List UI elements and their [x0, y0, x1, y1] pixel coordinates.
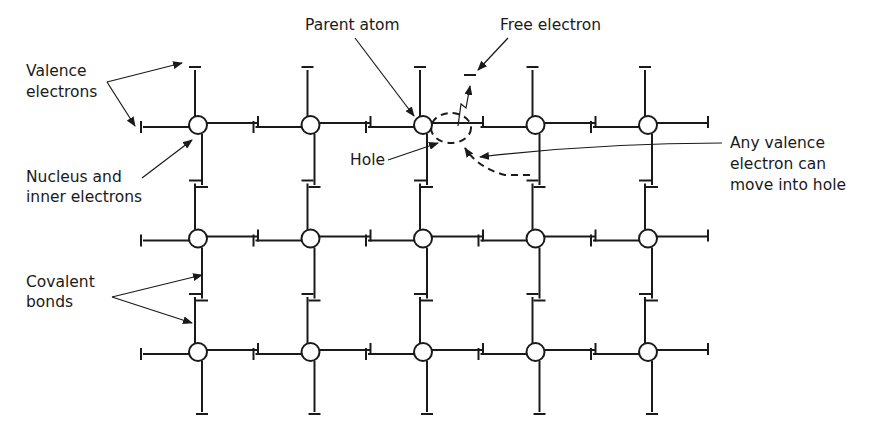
atom-nucleus	[302, 230, 320, 248]
arrow-parent-atom	[355, 38, 414, 116]
atom-nucleus	[527, 116, 545, 134]
svg-text:inner electrons: inner electrons	[26, 188, 142, 206]
atom-nucleus	[639, 116, 657, 134]
svg-text:move into hole: move into hole	[730, 176, 846, 194]
arrow-valence-left	[107, 82, 135, 126]
label-valence-electrons: Valence electrons	[26, 62, 97, 101]
atom-nucleus	[414, 343, 432, 361]
label-hole: Hole	[350, 151, 385, 169]
svg-text:Any valence: Any valence	[730, 134, 825, 152]
arrow-nucleus	[142, 140, 192, 178]
atom-lattice	[141, 67, 708, 414]
atom-nucleus	[639, 343, 657, 361]
electron-move-path	[465, 148, 530, 175]
label-covalent-bonds: Covalent bonds	[26, 273, 95, 311]
svg-text:bonds: bonds	[26, 293, 73, 311]
atom-nucleus	[414, 230, 432, 248]
arrow-any-valence	[480, 143, 722, 157]
arrow-valence-top	[107, 63, 182, 82]
svg-text:Valence: Valence	[26, 62, 87, 80]
arrow-free-electron	[478, 38, 508, 70]
atom-nucleus	[302, 343, 320, 361]
label-nucleus: Nucleus and inner electrons	[26, 168, 142, 206]
atom-nucleus	[189, 230, 207, 248]
label-parent-atom: Parent atom	[305, 16, 400, 34]
atom-nucleus	[302, 116, 320, 134]
label-free-electron: Free electron	[500, 16, 601, 34]
arrow-bond-lower	[112, 297, 192, 323]
lattice-diagram: Valence electrons Nucleus and inner elec…	[0, 0, 878, 436]
hole-marker	[431, 113, 471, 143]
atom-nucleus	[639, 230, 657, 248]
svg-text:Covalent: Covalent	[26, 273, 95, 291]
atom-nucleus	[414, 116, 432, 134]
arrow-hole	[388, 143, 438, 160]
svg-text:Nucleus and: Nucleus and	[26, 168, 122, 186]
svg-text:electrons: electrons	[26, 83, 97, 101]
arrow-bond-upper	[112, 275, 202, 297]
atom-nucleus	[527, 230, 545, 248]
atom-nucleus	[527, 343, 545, 361]
label-any-valence: Any valence electron can move into hole	[730, 134, 846, 194]
atom-nucleus	[189, 116, 207, 134]
svg-text:electron can: electron can	[730, 155, 826, 173]
atom-nucleus	[189, 343, 207, 361]
